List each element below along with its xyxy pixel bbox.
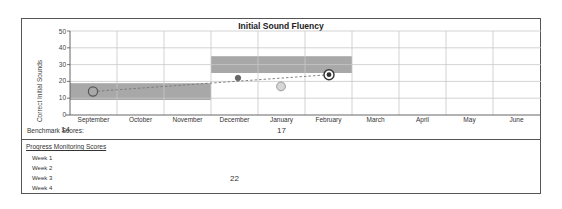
month-september: September [70,116,117,123]
month-february: February [305,116,352,123]
week-2-label: Week 2 [32,165,52,171]
progress-score-december-week-3: 22 [211,174,258,183]
february-current-marker-center [327,72,332,77]
december-progress-marker [235,75,241,81]
january-benchmark-marker [277,82,286,91]
week-3-label: Week 3 [32,175,52,181]
month-march: March [352,116,399,123]
benchmark-score-january: 17 [258,126,305,135]
september-benchmark-marker [88,87,97,96]
chart-container: Initial Sound Fluency Correct Initial So… [21,18,541,194]
progress-monitoring-title: Progress Monitoring Scores [26,143,106,150]
vertical-gridlines [117,31,493,115]
month-january: January [258,116,305,123]
month-december: December [211,116,258,123]
benchmark-score-september: 14 [42,125,89,134]
month-october: October [117,116,164,123]
month-april: April [399,116,446,123]
plot-area [22,19,542,195]
month-may: May [446,116,493,123]
month-november: November [164,116,211,123]
month-june: June [493,116,540,123]
week-4-label: Week 4 [32,185,52,191]
week-1-label: Week 1 [32,155,52,161]
section-divider [22,139,540,140]
